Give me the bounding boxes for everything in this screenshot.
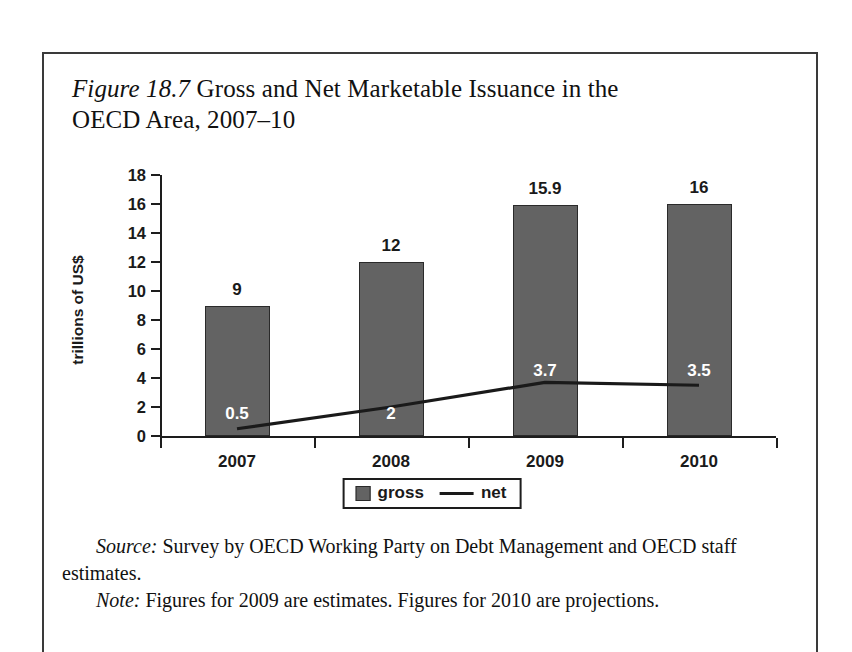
legend-label-net: net (481, 483, 507, 503)
y-tick-mark (151, 261, 160, 263)
y-tick-label: 10 (72, 282, 146, 301)
y-tick-label: 2 (72, 398, 146, 417)
net-line (160, 175, 776, 437)
source-text: Survey by OECD Working Party on Debt Man… (62, 535, 737, 584)
x-tick-mark (776, 438, 778, 448)
y-tick-label: 12 (72, 253, 146, 272)
figure-number: Figure 18.7 (72, 75, 190, 102)
legend-swatch-gross-icon (356, 486, 371, 501)
chart-figure: trillions of US$ 024681012141618 2007200… (72, 160, 792, 520)
y-tick-label: 14 (72, 224, 146, 243)
x-axis-label: 2009 (526, 452, 564, 472)
x-axis-label: 2010 (680, 452, 718, 472)
y-tick-label: 4 (72, 369, 146, 388)
x-axis-label: 2007 (218, 452, 256, 472)
note-line: Note: Figures for 2009 are estimates. Fi… (62, 587, 802, 614)
legend-label-gross: gross (378, 483, 424, 503)
net-value-label: 2 (386, 404, 395, 424)
chart-legend: gross net (343, 478, 522, 509)
x-axis-label: 2008 (372, 452, 410, 472)
y-tick-mark (151, 319, 160, 321)
figure-notes: Source: Survey by OECD Working Party on … (62, 533, 802, 614)
note-lead: Note: (96, 589, 140, 611)
y-tick-label: 6 (72, 340, 146, 359)
source-line: Source: Survey by OECD Working Party on … (62, 533, 802, 587)
y-tick-label: 16 (72, 195, 146, 214)
y-tick-label: 8 (72, 311, 146, 330)
source-lead: Source: (96, 535, 157, 557)
y-tick-mark (151, 377, 160, 379)
x-tick-mark (468, 438, 470, 448)
net-value-label: 0.5 (225, 404, 249, 424)
y-tick-mark (151, 203, 160, 205)
y-tick-mark (151, 174, 160, 176)
y-tick-mark (151, 232, 160, 234)
legend-line-net-icon (440, 492, 474, 495)
net-value-label: 3.7 (533, 361, 557, 381)
y-tick-mark (151, 348, 160, 350)
legend-item-gross: gross (356, 483, 424, 503)
y-tick-mark (151, 290, 160, 292)
figure-title: Figure 18.7 Gross and Net Marketable Iss… (72, 74, 672, 135)
x-tick-mark (160, 438, 162, 448)
x-tick-mark (622, 438, 624, 448)
y-tick-label: 0 (72, 427, 146, 446)
net-value-label: 3.5 (687, 361, 711, 381)
y-tick-mark (151, 435, 160, 437)
legend-item-net: net (440, 483, 507, 503)
y-tick-mark (151, 406, 160, 408)
x-tick-mark (314, 438, 316, 448)
note-text: Figures for 2009 are estimates. Figures … (140, 589, 659, 611)
y-tick-label: 18 (72, 166, 146, 185)
